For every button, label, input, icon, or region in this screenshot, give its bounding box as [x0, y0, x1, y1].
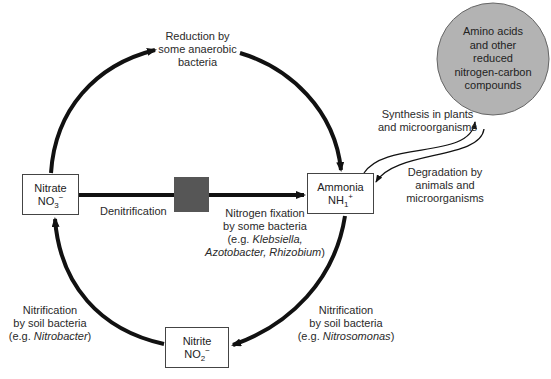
synthesis-label: Synthesis in plants and microorganisms	[365, 108, 490, 134]
nitrate-box: Nitrate NO3−	[22, 174, 79, 215]
ammonia-name: Ammonia	[308, 181, 373, 194]
denitrification-label: Denitrification	[100, 205, 167, 218]
arrow-reduction-to-ammonia	[240, 53, 341, 170]
fixation-label: Nitrogen fixation by some bacteria (e.g.…	[200, 207, 330, 259]
nitrification-left-label: Nitrification by soil bacteria (e.g. Nit…	[5, 304, 95, 343]
nitrate-name: Nitrate	[23, 182, 78, 195]
degradation-label: Degradation by animals and microorganism…	[400, 166, 490, 205]
compounds-label: Amino acids and other reduced nitrogen-c…	[443, 25, 543, 93]
arrow-nitrate-to-reduction	[51, 50, 155, 173]
reduction-label: Reduction by some anaerobic bacteria	[155, 30, 240, 69]
ammonia-formula: NH1+	[308, 194, 373, 207]
nitrite-formula: NO2−	[166, 348, 228, 361]
nitrite-name: Nitrite	[166, 335, 228, 348]
nitrate-formula: NO3−	[23, 195, 78, 208]
nitrite-box: Nitrite NO2−	[165, 327, 229, 368]
nitrification-right-label: Nitrification by soil bacteria (e.g. Nit…	[296, 304, 396, 343]
